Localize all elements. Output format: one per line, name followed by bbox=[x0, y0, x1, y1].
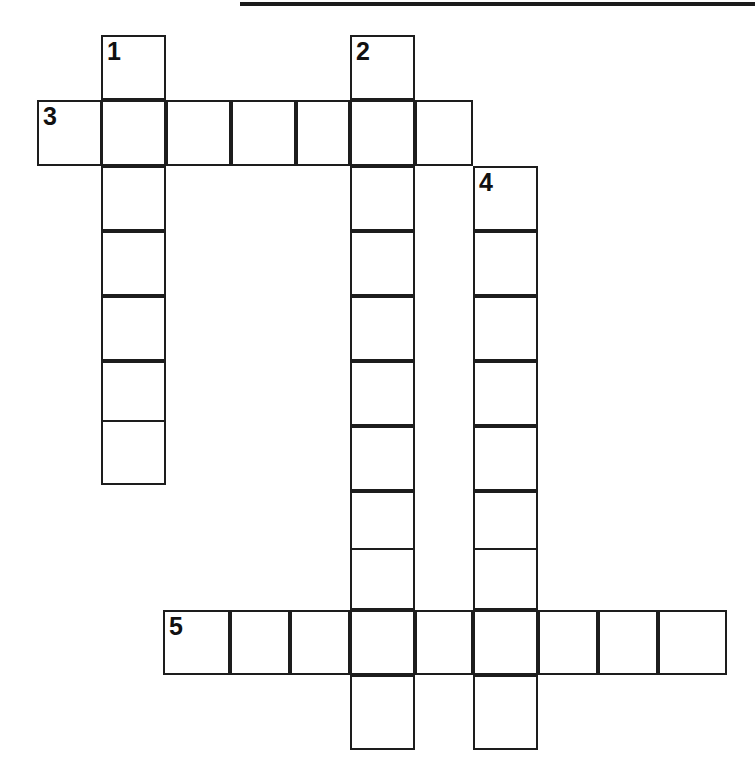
crossword-cell[interactable] bbox=[473, 675, 538, 750]
clue-number-2: 2 bbox=[356, 38, 369, 64]
crossword-cell[interactable] bbox=[415, 610, 473, 675]
crossword-cell[interactable] bbox=[231, 100, 296, 166]
crossword-cell[interactable] bbox=[473, 610, 538, 675]
clue-number-4: 4 bbox=[479, 169, 492, 195]
crossword-cell[interactable] bbox=[166, 100, 231, 166]
crossword-cell[interactable] bbox=[101, 166, 166, 231]
crossword-cell[interactable] bbox=[101, 231, 166, 296]
crossword-cell[interactable] bbox=[101, 296, 166, 361]
crossword-cell[interactable] bbox=[473, 296, 538, 361]
crossword-cell[interactable] bbox=[658, 610, 727, 675]
crossword-cell[interactable] bbox=[230, 610, 290, 675]
crossword-cell[interactable] bbox=[473, 491, 538, 556]
crossword-cell-start-5[interactable]: 5 bbox=[163, 610, 230, 675]
crossword-cell[interactable] bbox=[350, 491, 415, 556]
crossword-cell[interactable] bbox=[350, 610, 415, 675]
crossword-cell[interactable] bbox=[473, 426, 538, 491]
crossword-cell[interactable] bbox=[350, 166, 415, 231]
clue-number-3: 3 bbox=[43, 103, 56, 129]
crossword-cell[interactable] bbox=[473, 548, 538, 610]
crossword-grid: 12345 bbox=[0, 0, 755, 772]
crossword-cell[interactable] bbox=[538, 610, 598, 675]
crossword-cell[interactable] bbox=[598, 610, 658, 675]
crossword-cell[interactable] bbox=[350, 296, 415, 361]
crossword-cell[interactable] bbox=[101, 420, 166, 485]
clue-number-5: 5 bbox=[169, 613, 182, 639]
crossword-page: 12345 bbox=[0, 0, 755, 772]
crossword-cell-start-4[interactable]: 4 bbox=[473, 166, 538, 231]
crossword-cell[interactable] bbox=[473, 361, 538, 426]
crossword-cell[interactable] bbox=[350, 100, 415, 166]
crossword-cell[interactable] bbox=[101, 361, 166, 426]
crossword-cell[interactable] bbox=[350, 548, 415, 610]
crossword-cell[interactable] bbox=[473, 231, 538, 296]
crossword-cell[interactable] bbox=[350, 231, 415, 296]
clue-number-1: 1 bbox=[107, 38, 120, 64]
crossword-cell[interactable] bbox=[101, 100, 166, 166]
crossword-cell[interactable] bbox=[415, 100, 473, 166]
crossword-cell[interactable] bbox=[350, 675, 415, 750]
crossword-cell-start-1[interactable]: 1 bbox=[101, 35, 166, 100]
crossword-cell[interactable] bbox=[296, 100, 350, 166]
crossword-cell[interactable] bbox=[290, 610, 350, 675]
crossword-cell[interactable] bbox=[350, 426, 415, 491]
crossword-cell-start-3[interactable]: 3 bbox=[37, 100, 102, 166]
crossword-cell-start-2[interactable]: 2 bbox=[350, 35, 415, 100]
crossword-cell[interactable] bbox=[350, 361, 415, 426]
